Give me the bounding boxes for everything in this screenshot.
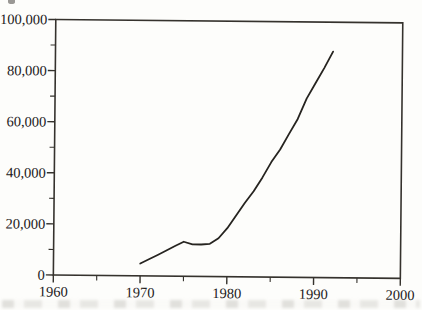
x-axis: 19601970198019902000 [39,275,415,303]
x-axis-tick-label: 1960 [39,283,68,299]
y-axis-tick-label: 40,000 [6,164,46,180]
x-axis-tick-label: 1980 [212,285,241,301]
scan-smudge [2,300,420,308]
y-axis-tick-label: 80,000 [7,62,47,78]
y-axis-tick-label: 20,000 [5,215,45,231]
y-axis-tick-label: 0 [38,267,45,283]
plot-frame [53,20,402,279]
x-axis-tick-label: 1970 [125,284,154,300]
data-line-value [140,50,333,266]
figure-canvas: 020,00040,00060,00080,000100,00019601970… [0,0,422,310]
y-axis: 020,00040,00060,00080,000100,000 [0,11,56,283]
line-chart: 020,00040,00060,00080,000100,00019601970… [0,0,422,310]
y-axis-tick-label: 100,000 [0,11,47,27]
y-axis-tick-label: 60,000 [6,113,46,129]
